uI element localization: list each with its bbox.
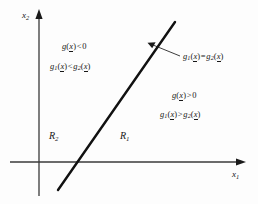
y-axis [35, 9, 42, 196]
annotation-g-positive: g(x)>0 [172, 91, 197, 100]
figure-vector-layer [0, 0, 258, 204]
annotation-g-negative: g(x)<0 [62, 42, 87, 51]
decision-boundary-figure: x2 x1 g(x)<0 g1(x)<g2(x) g1(x)=g2(x) g(x… [0, 0, 258, 204]
x-axis [10, 158, 246, 165]
annotation-g1-lt-g2: g1(x)<g2(x) [50, 62, 91, 72]
y-axis-label: x2 [22, 11, 29, 21]
x-axis-label: x1 [232, 170, 239, 180]
annotation-g1-gt-g2: g1(x)>g2(x) [160, 110, 201, 120]
region-label-r1: R1 [120, 131, 130, 142]
region-label-r2: R2 [49, 131, 59, 142]
annotation-decision-boundary: g1(x)=g2(x) [183, 52, 224, 62]
